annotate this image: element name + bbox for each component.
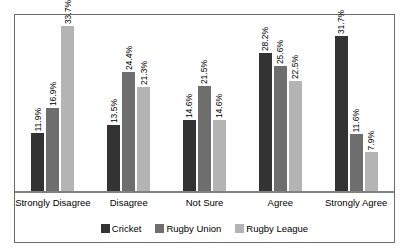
bar-value-label: 31.7% (335, 10, 348, 34)
bar-slot: 21.5% (198, 15, 211, 191)
plot-area: 11.9%16.9%33.7%13.5%24.4%21.3%14.6%21.5%… (15, 15, 394, 191)
bar-value-label: 13.5% (107, 99, 120, 123)
bar (61, 26, 74, 191)
category-label: Disagree (91, 194, 167, 214)
bar-value-label: 33.7% (61, 0, 74, 24)
chart-frame: 11.9%16.9%33.7%13.5%24.4%21.3%14.6%21.5%… (14, 14, 395, 243)
bar (365, 152, 378, 191)
category-axis: Strongly DisagreeDisagreeNot SureAgreeSt… (15, 194, 394, 214)
bar-slot: 11.9% (31, 15, 44, 191)
chart-legend: CricketRugby UnionRugby League (15, 217, 394, 239)
bar (259, 53, 272, 191)
bar (350, 134, 363, 191)
bar-value-label: 11.6% (350, 109, 363, 132)
bar (137, 87, 150, 191)
legend-item: Rugby Union (155, 223, 221, 234)
bar (198, 86, 211, 191)
bar-slot: 33.7% (61, 15, 74, 191)
bar-slot: 25.6% (274, 15, 287, 191)
category-label: Strongly Agree (318, 194, 394, 214)
legend-swatch-icon (235, 224, 244, 233)
bar-value-label: 11.9% (31, 108, 44, 131)
category-label: Strongly Disagree (15, 194, 91, 214)
bar (46, 108, 59, 191)
legend-item: Cricket (101, 223, 142, 234)
bar-value-label: 21.3% (137, 61, 150, 85)
bar (122, 72, 135, 191)
bar-group: 11.9%16.9%33.7% (15, 15, 91, 191)
bar (107, 125, 120, 191)
category-label: Agree (242, 194, 318, 214)
legend-item: Rugby League (235, 223, 308, 234)
bar-slot: 14.6% (213, 15, 226, 191)
bar (213, 120, 226, 191)
bar-group: 31.7%11.6%7.9% (318, 15, 394, 191)
legend-label: Rugby Union (166, 223, 221, 234)
bar-slot: 14.6% (183, 15, 196, 191)
legend-label: Cricket (112, 223, 142, 234)
x-axis-line (15, 191, 394, 193)
bar-group: 28.2%25.6%22.5% (242, 15, 318, 191)
bar-slot: 7.9% (365, 15, 378, 191)
bar-group: 13.5%24.4%21.3% (91, 15, 167, 191)
bar (31, 133, 44, 191)
bar-value-label: 28.2% (259, 27, 272, 51)
bar-value-label: 25.6% (274, 40, 287, 64)
bar-slot: 22.5% (289, 15, 302, 191)
bar-groups: 11.9%16.9%33.7%13.5%24.4%21.3%14.6%21.5%… (15, 15, 394, 191)
bar-value-label: 14.6% (213, 94, 226, 118)
bar-value-label: 21.5% (198, 60, 211, 84)
bar-value-label: 16.9% (46, 82, 59, 106)
bar-slot: 13.5% (107, 15, 120, 191)
bar-value-label: 24.4% (122, 46, 135, 70)
bar-value-label: 22.5% (289, 55, 302, 79)
legend-swatch-icon (101, 224, 110, 233)
category-label: Not Sure (167, 194, 243, 214)
bar-slot: 16.9% (46, 15, 59, 191)
bar-slot: 24.4% (122, 15, 135, 191)
bar (289, 81, 302, 191)
bar-group: 14.6%21.5%14.6% (167, 15, 243, 191)
bar-slot: 11.6% (350, 15, 363, 191)
bar-value-label: 7.9% (365, 131, 378, 150)
bar-slot: 31.7% (335, 15, 348, 191)
bar-value-label: 14.6% (183, 94, 196, 118)
legend-label: Rugby League (246, 223, 308, 234)
bar-slot: 21.3% (137, 15, 150, 191)
bar (335, 36, 348, 191)
bar (183, 120, 196, 191)
bar (274, 66, 287, 191)
bar-slot: 28.2% (259, 15, 272, 191)
legend-swatch-icon (155, 224, 164, 233)
